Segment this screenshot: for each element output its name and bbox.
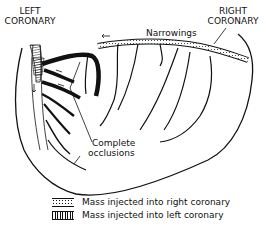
complete-occlusions-line2: occlusions xyxy=(88,148,135,158)
coronary-diagram xyxy=(0,0,266,228)
left-coronary-label-line1: LEFT xyxy=(4,6,56,16)
striped-pattern-swatch xyxy=(52,211,74,220)
heart-outline xyxy=(16,34,253,195)
legend-right-coronary: Mass injected into right coronary xyxy=(52,197,230,207)
dotted-pattern-swatch xyxy=(52,198,74,207)
legend-right-text: Mass injected into right coronary xyxy=(82,197,230,207)
complete-occlusions-label: Complete occlusions xyxy=(88,138,135,158)
complete-occlusions-line1: Complete xyxy=(88,138,135,148)
legend-left-text: Mass injected into left coronary xyxy=(82,210,224,220)
right-coronary-label-line1: RIGHT xyxy=(204,6,262,16)
narrowings-label: Narrowings xyxy=(146,28,197,38)
left-coronary-label-line2: CORONARY xyxy=(4,16,56,26)
left-coronary-label: LEFT CORONARY xyxy=(4,6,56,26)
right-coronary-label-line2: CORONARY xyxy=(204,16,262,26)
legend-left-coronary: Mass injected into left coronary xyxy=(52,210,224,220)
right-coronary-label: RIGHT CORONARY xyxy=(204,6,262,26)
